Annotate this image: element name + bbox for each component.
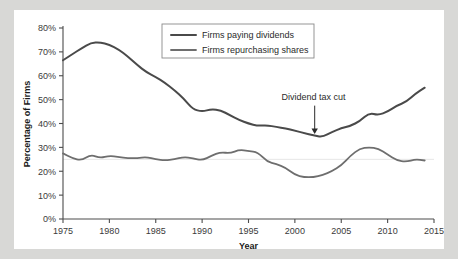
y-tick-label: 40% (38, 119, 56, 129)
x-tick-label: 1990 (192, 226, 212, 236)
y-tick-label: 80% (38, 23, 56, 33)
x-tick-label: 1985 (146, 226, 166, 236)
y-tick-label: 0% (43, 214, 56, 224)
y-axis-label: Percentage of Firms (22, 81, 32, 168)
y-axis-ticks: 0%10%20%30%40%50%60%70%80% (38, 23, 63, 224)
chart-annotations: Dividend tax cut (281, 92, 346, 134)
x-tick-label: 2010 (378, 226, 398, 236)
x-tick-label: 1995 (238, 226, 258, 236)
x-tick-label: 2000 (285, 226, 305, 236)
chart-legend: Firms paying dividendsFirms repurchasing… (162, 24, 314, 58)
data-series (63, 43, 425, 178)
y-tick-label: 70% (38, 47, 56, 57)
annotation-arrow-head (312, 129, 318, 135)
line-chart: 0%10%20%30%40%50%60%70%80% 1975198019851… (14, 10, 444, 249)
x-tick-label: 2015 (424, 226, 444, 236)
x-axis-label: Year (239, 241, 259, 249)
y-tick-label: 60% (38, 71, 56, 81)
annotation-label: Dividend tax cut (281, 92, 346, 102)
y-tick-label: 30% (38, 143, 56, 153)
y-tick-label: 20% (38, 167, 56, 177)
x-tick-label: 1980 (99, 226, 119, 236)
series-line (63, 148, 425, 178)
y-tick-label: 10% (38, 191, 56, 201)
chart-figure: 0%10%20%30%40%50%60%70%80% 1975198019851… (14, 10, 444, 249)
legend-label: Firms paying dividends (202, 30, 295, 40)
x-tick-label: 1975 (53, 226, 73, 236)
x-axis-ticks: 197519801985199019952000200520102015 (53, 219, 444, 236)
y-tick-label: 50% (38, 95, 56, 105)
x-tick-label: 2005 (331, 226, 351, 236)
legend-label: Firms repurchasing shares (202, 45, 309, 55)
